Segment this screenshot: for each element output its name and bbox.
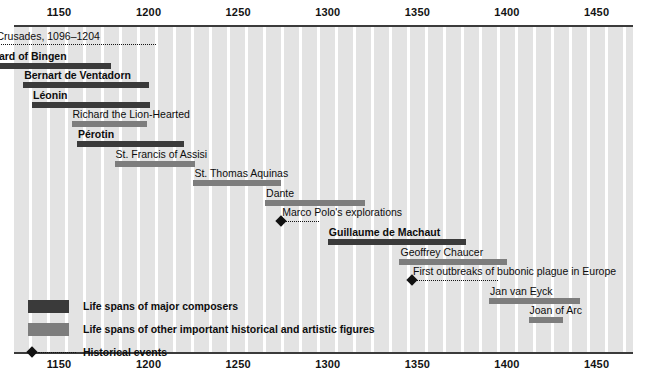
lifespan-bar-figure bbox=[265, 200, 365, 206]
lifespan-bar-composer bbox=[32, 102, 150, 108]
axis-tick-1400-top: 1400 bbox=[494, 6, 519, 18]
lifespan-bar-figure bbox=[115, 161, 196, 167]
timeline-entry-label: Geoffrey Chaucer bbox=[400, 246, 483, 258]
axis-tick-1250-top: 1250 bbox=[226, 6, 251, 18]
axis-tick-1450-top: 1450 bbox=[584, 6, 609, 18]
legend-label: Life spans of other important historical… bbox=[83, 323, 375, 336]
event-dotted-line bbox=[412, 280, 498, 281]
timeline-entry-label: Age of Crusades, 1096–1204 bbox=[0, 30, 100, 42]
timeline-entry-label: Jan van Eyck bbox=[490, 285, 552, 297]
legend-item-composer: Life spans of major composers bbox=[0, 299, 647, 315]
legend-label: Life spans of major composers bbox=[83, 300, 238, 313]
legend-item-figure: Life spans of other important historical… bbox=[0, 322, 647, 338]
timeline-entry-label: St. Thomas Aquinas bbox=[194, 167, 288, 179]
era-dotted-line bbox=[0, 44, 156, 45]
axis-tick-1300-top: 1300 bbox=[315, 6, 340, 18]
timeline-entry-label: Hildegard of Bingen bbox=[0, 50, 67, 62]
legend-item-event: Historical events bbox=[0, 345, 647, 361]
timeline-entry-label: Bernart de Ventadorn bbox=[24, 69, 131, 81]
timeline-entry-label: First outbreaks of bubonic plague in Eur… bbox=[413, 265, 616, 277]
timeline-entry-label: Léonin bbox=[33, 89, 67, 101]
lifespan-bar-composer bbox=[328, 239, 466, 245]
legend-label: Historical events bbox=[83, 346, 167, 359]
timeline-entry-label: Marco Polo's explorations bbox=[282, 206, 402, 218]
lifespan-bar-composer bbox=[23, 82, 148, 88]
lifespan-bar-figure bbox=[72, 121, 147, 127]
timeline-entry-label: Pérotin bbox=[78, 128, 114, 140]
timeline-entry-label: St. Francis of Assisi bbox=[116, 148, 208, 160]
lifespan-bar-composer bbox=[77, 141, 185, 147]
legend-swatch-figure bbox=[28, 323, 69, 336]
legend-swatch-composer bbox=[28, 300, 69, 313]
lifespan-bar-composer bbox=[0, 63, 111, 69]
timeline-entry-label: Richard the Lion-Hearted bbox=[73, 108, 190, 120]
timeline-entry-label: Guillaume de Machaut bbox=[329, 226, 440, 238]
lifespan-bar-figure bbox=[193, 180, 281, 186]
axis-tick-1350-top: 1350 bbox=[405, 6, 430, 18]
axis-tick-1200-top: 1200 bbox=[136, 6, 161, 18]
legend-event-diamond-icon bbox=[26, 346, 37, 357]
top-axis-rule bbox=[14, 25, 633, 26]
top-axis: 1150120012501300135014001450 bbox=[0, 6, 647, 22]
event-dotted-line bbox=[281, 221, 319, 222]
timeline-entry-label: Dante bbox=[266, 187, 294, 199]
lifespan-bar-figure bbox=[399, 259, 507, 265]
legend-event-dotted-line bbox=[38, 352, 76, 353]
timeline-chart: 1150120012501300135014001450 11501200125… bbox=[0, 0, 647, 390]
axis-tick-1150-top: 1150 bbox=[47, 6, 72, 18]
